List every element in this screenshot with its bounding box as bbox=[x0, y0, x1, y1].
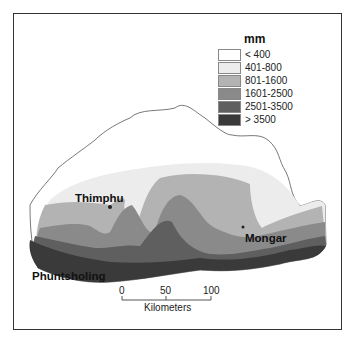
legend-item: 801-1600 bbox=[218, 74, 293, 87]
legend-title: mm bbox=[244, 32, 293, 46]
city-label-mongar: Mongar bbox=[245, 232, 287, 244]
legend-label: 801-1600 bbox=[245, 75, 287, 86]
legend-item: < 400 bbox=[218, 48, 293, 61]
scale-tick-0: 0 bbox=[119, 285, 125, 296]
legend: mm < 400 401-800 801-1600 1601-2500 2501… bbox=[218, 32, 293, 126]
legend-swatch bbox=[218, 49, 241, 61]
legend-swatch bbox=[218, 62, 241, 74]
scale-tick-100: 100 bbox=[203, 285, 220, 296]
legend-item: > 3500 bbox=[218, 113, 293, 126]
legend-label: 2501-3500 bbox=[245, 101, 293, 112]
legend-swatch bbox=[218, 101, 241, 113]
legend-label: 1601-2500 bbox=[245, 88, 293, 99]
legend-label: 401-800 bbox=[245, 62, 282, 73]
legend-item: 1601-2500 bbox=[218, 87, 293, 100]
rainfall-map bbox=[0, 0, 355, 346]
legend-label: > 3500 bbox=[245, 114, 276, 125]
legend-item: 2501-3500 bbox=[218, 100, 293, 113]
city-marker-thimphu bbox=[108, 205, 112, 209]
legend-item: 401-800 bbox=[218, 61, 293, 74]
legend-swatch bbox=[218, 114, 241, 126]
legend-swatch bbox=[218, 75, 241, 87]
legend-swatch bbox=[218, 88, 241, 100]
city-label-phuntsholing: Phuntsholing bbox=[32, 270, 105, 282]
city-label-thimphu: Thimphu bbox=[75, 192, 124, 204]
scale-tick-50: 50 bbox=[160, 285, 171, 296]
scale-unit-label: Kilometers bbox=[144, 302, 191, 313]
city-marker-mongar bbox=[242, 226, 245, 229]
legend-label: < 400 bbox=[245, 49, 270, 60]
scale-bar bbox=[122, 296, 211, 300]
